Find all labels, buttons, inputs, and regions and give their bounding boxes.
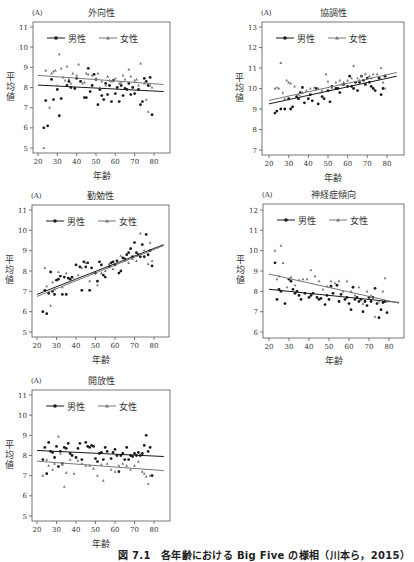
- trend-line: [37, 245, 164, 295]
- x-tick-label: 50: [92, 158, 101, 166]
- data-point: [57, 435, 60, 438]
- y-tick-label: 8: [23, 452, 27, 460]
- data-point: [290, 280, 293, 283]
- legend-male-label: 男性: [297, 33, 315, 44]
- y-tick-label: 10: [19, 44, 28, 52]
- legend-male-label: 男性: [68, 33, 86, 44]
- data-point: [73, 87, 76, 90]
- x-tick-label: 80: [150, 342, 159, 350]
- trend-line: [37, 246, 164, 297]
- data-point: [283, 108, 286, 111]
- data-point: [340, 293, 343, 296]
- data-point: [75, 264, 78, 267]
- data-point: [348, 302, 351, 305]
- data-point: [65, 471, 68, 474]
- data-point: [100, 463, 103, 466]
- y-tick-label: 11: [248, 65, 257, 73]
- data-point: [67, 442, 70, 445]
- data-point: [61, 293, 64, 296]
- x-tick-label: 20: [33, 342, 42, 350]
- x-tick-label: 20: [265, 343, 274, 351]
- x-tick-label: 70: [130, 158, 139, 166]
- x-tick-label: 20: [265, 160, 274, 168]
- legend-male-marker: [283, 36, 287, 40]
- data-point: [143, 444, 146, 447]
- x-tick-label: 80: [150, 158, 159, 166]
- data-point: [51, 281, 54, 284]
- chart-title: 神経症傾向: [311, 189, 356, 200]
- data-point: [64, 79, 67, 82]
- data-point: [274, 249, 277, 252]
- trend-line: [269, 73, 397, 101]
- x-tick-label: 40: [72, 342, 81, 350]
- data-point: [50, 78, 53, 81]
- data-point: [43, 446, 46, 449]
- data-point: [378, 77, 381, 80]
- trend-line: [37, 450, 164, 456]
- y-tick-label: 11: [18, 392, 27, 400]
- data-point: [122, 74, 125, 77]
- data-point: [65, 271, 68, 274]
- data-point: [45, 472, 48, 475]
- y-tick-label: 9: [23, 432, 27, 440]
- x-tick-label: 20: [34, 158, 43, 166]
- x-tick-label: 60: [111, 158, 120, 166]
- chart-panel-3: (A)勤勉性56789101120304050607080年齢平均値男性女性: [5, 190, 170, 365]
- x-tick-label: 60: [343, 160, 352, 168]
- y-tick-label: 5: [23, 329, 27, 337]
- chart-title: 開放性: [88, 375, 115, 386]
- data-point: [118, 464, 121, 467]
- y-tick-label: 11: [19, 24, 28, 32]
- data-point: [352, 87, 355, 90]
- data-point: [59, 275, 62, 278]
- data-point: [382, 81, 385, 84]
- data-point: [112, 260, 115, 263]
- data-point: [127, 261, 130, 264]
- x-axis-label: 年齢: [325, 355, 343, 366]
- data-point: [54, 69, 57, 72]
- chart-panel-2: (A)協調性7891011121320304050607080年齢平均値男性女性: [235, 7, 405, 183]
- data-point: [342, 81, 345, 84]
- y-tick-label: 8: [253, 126, 257, 134]
- data-point: [85, 96, 88, 99]
- data-point: [285, 79, 288, 82]
- y-tick-label: 9: [24, 64, 28, 72]
- x-tick-label: 80: [385, 343, 394, 351]
- data-point: [327, 80, 330, 83]
- y-tick-label: 10: [249, 247, 258, 255]
- data-point: [354, 294, 357, 297]
- data-point: [110, 468, 113, 471]
- data-point: [317, 102, 320, 105]
- data-point: [133, 241, 136, 244]
- data-point: [56, 84, 59, 87]
- data-point: [42, 146, 45, 149]
- data-point: [325, 73, 328, 76]
- data-point: [291, 106, 294, 109]
- data-point: [42, 126, 45, 129]
- data-point: [145, 233, 148, 236]
- x-tick-label: 20: [33, 526, 42, 534]
- data-point: [298, 294, 301, 297]
- y-axis-label-char: 平: [236, 255, 245, 265]
- data-point: [133, 92, 136, 95]
- data-point: [57, 465, 60, 468]
- data-point: [90, 267, 93, 270]
- data-point: [125, 253, 128, 256]
- data-point: [49, 304, 52, 307]
- x-tick-label: 50: [91, 342, 100, 350]
- chart-title: 勤勉性: [87, 190, 114, 201]
- data-point: [77, 273, 80, 276]
- data-point: [321, 95, 324, 98]
- data-point: [98, 260, 101, 263]
- data-point: [346, 280, 349, 283]
- panel-label: (A): [32, 9, 43, 17]
- y-tick-label: 7: [254, 308, 258, 316]
- data-point: [114, 92, 117, 95]
- data-point: [147, 262, 150, 265]
- series-male: [269, 75, 397, 115]
- legend-male-label: 男性: [67, 216, 85, 227]
- x-tick-label: 60: [111, 342, 120, 350]
- data-point: [137, 84, 140, 87]
- y-axis-label-char: 値: [236, 274, 245, 285]
